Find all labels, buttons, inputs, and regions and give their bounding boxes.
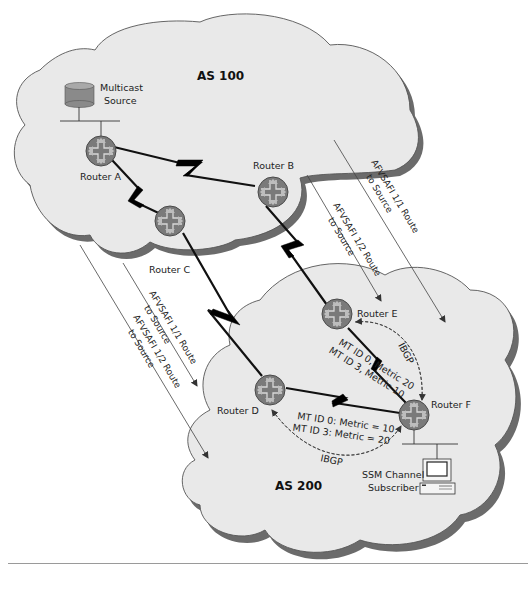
router-icon (322, 299, 352, 329)
router-icon (255, 375, 285, 405)
subscriber-label-line2: Subscriber (368, 482, 419, 493)
router-e-label: Router E (357, 308, 398, 319)
router-icon (399, 400, 429, 430)
network-diagram: AS 100 AS 200 Multicast Source (0, 0, 531, 594)
multicast-source-label-line2: Source (104, 95, 137, 106)
computer-icon (420, 459, 455, 494)
router-f-label: Router F (431, 399, 471, 410)
subscriber-label-line1: SSM Channel (362, 469, 424, 480)
bottom-divider (8, 563, 528, 564)
database-icon (65, 83, 94, 108)
router-icon (258, 177, 288, 207)
router-c-label: Router C (149, 264, 191, 275)
router-icon (86, 136, 116, 166)
as100-label: AS 100 (197, 69, 244, 83)
multicast-source-label-line1: Multicast (100, 82, 143, 93)
router-a-label: Router A (80, 171, 122, 182)
router-d-label: Router D (217, 405, 259, 416)
as100-cloud: AS 100 (14, 14, 423, 259)
router-icon (155, 206, 185, 236)
as200-label: AS 200 (275, 479, 322, 493)
router-b-label: Router B (253, 160, 294, 171)
